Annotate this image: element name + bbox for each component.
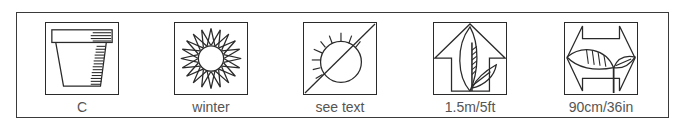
legend-item-hardiness: C [45, 22, 121, 118]
legend-item-height: 1.5m/5ft [433, 22, 509, 118]
legend-item-flowering-season: winter [174, 22, 250, 118]
pot-icon [45, 22, 119, 95]
height-icon [433, 22, 507, 95]
spread-label: 90cm/36in [544, 99, 658, 115]
sun-icon [303, 22, 377, 95]
flower-icon [174, 22, 248, 95]
flowering-season-label: winter [154, 99, 268, 115]
spread-icon [564, 22, 638, 95]
sun-aspect-label: see text [283, 99, 397, 115]
hardiness-label: C [25, 99, 139, 115]
height-label: 1.5m/5ft [413, 99, 527, 115]
legend-item-sun-aspect: see text [303, 22, 379, 118]
legend-item-spread: 90cm/36in [564, 22, 640, 118]
